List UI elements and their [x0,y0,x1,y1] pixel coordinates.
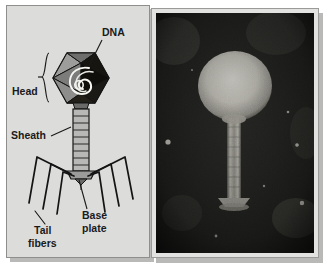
micrograph-frame [151,8,319,258]
phage-sheath [51,109,89,171]
micrograph-vignette [156,13,314,253]
label-dna: DNA [102,26,125,38]
label-tail-fibers-line1: Tail [34,224,51,236]
micrograph-canvas [156,13,314,253]
phage-collar [73,103,89,109]
sheath-body [73,109,89,171]
label-base-plate-line2: plate [82,222,107,234]
label-base-plate-line1: Base [82,209,107,221]
label-sheath: Sheath [11,129,46,141]
bacteriophage-figure: DNA Head Sheath Base plate Tail fibers [0,0,327,276]
phage-head-group [53,40,109,103]
electron-micrograph [156,13,314,253]
phage-base-plate [67,171,95,209]
phage-diagram: DNA Head Sheath Base plate Tail fibers [7,6,151,259]
sheath-leader-line [51,127,71,136]
label-tail-fibers-line2: fibers [28,237,57,249]
tail-fiber-leader-line [35,211,45,224]
label-head: Head [12,85,38,97]
head-brace [38,53,49,102]
base-plate-leader-line [79,180,87,209]
tail-fiber-5 [91,164,119,206]
diagram-panel: DNA Head Sheath Base plate Tail fibers [6,5,150,258]
